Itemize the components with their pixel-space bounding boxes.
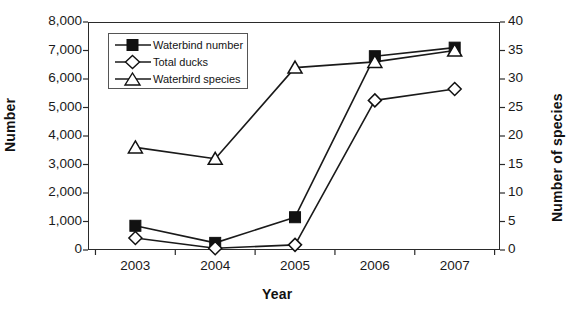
y-tick-label-left: 0 [24, 241, 82, 256]
y-tick-label-left: 4,000 [24, 127, 82, 142]
legend-label: Waterbird species [153, 71, 241, 87]
y-tick-label-left: 1,000 [24, 213, 82, 228]
y-tick-label-left: 5,000 [24, 99, 82, 114]
x-tick-label: 2006 [345, 258, 405, 273]
y-tick-label-right: 0 [508, 241, 548, 256]
y-tick-label-right: 10 [508, 184, 548, 199]
chart-figure: Number Number of species Year 01,0002,00… [0, 0, 568, 313]
legend-key-filled-square-icon [113, 37, 153, 53]
y-tick-label-left: 3,000 [24, 156, 82, 171]
x-axis-title: Year [262, 286, 292, 302]
data-point-marker [448, 82, 461, 95]
y-tick-label-right: 40 [508, 13, 548, 28]
y-tick-label-right: 15 [508, 156, 548, 171]
legend-key-open-triangle-icon [113, 71, 153, 87]
data-point-marker [130, 220, 141, 231]
legend-label: Waterbind number [153, 37, 243, 53]
y-tick-label-left: 7,000 [24, 42, 82, 57]
data-point-marker [289, 238, 302, 251]
legend-key-open-diamond-icon [113, 54, 153, 70]
legend-item-total-ducks: Total ducks [113, 54, 243, 70]
x-tick-label: 2004 [185, 258, 245, 273]
y-tick-label-right: 5 [508, 213, 548, 228]
y-tick-label-right: 30 [508, 70, 548, 85]
x-tick-label: 2005 [265, 258, 325, 273]
series-line [135, 89, 454, 248]
y-axis-title-left: Number [2, 98, 18, 152]
y-tick-label-right: 35 [508, 42, 548, 57]
data-point-marker [368, 94, 381, 107]
data-point-marker [128, 141, 142, 153]
data-point-marker [290, 212, 301, 223]
y-tick-label-left: 2,000 [24, 184, 82, 199]
legend-item-waterbird-species: Waterbird species [113, 71, 243, 87]
y-tick-label-left: 8,000 [24, 13, 82, 28]
chart-legend: Waterbind number Total ducks Waterbird s… [108, 33, 248, 89]
y-tick-label-right: 25 [508, 99, 548, 114]
data-point-marker [129, 232, 142, 245]
legend-item-waterbind-number: Waterbind number [113, 37, 243, 53]
x-tick-label: 2003 [105, 258, 165, 273]
y-tick-label-left: 6,000 [24, 70, 82, 85]
legend-label: Total ducks [153, 54, 208, 70]
y-axis-title-right: Number of species [549, 93, 565, 222]
x-tick-label: 2007 [425, 258, 485, 273]
y-tick-label-right: 20 [508, 127, 548, 142]
